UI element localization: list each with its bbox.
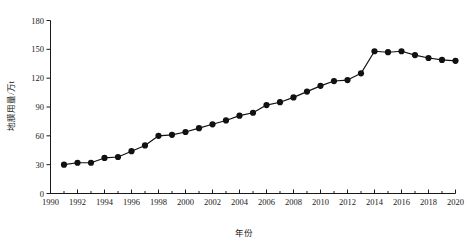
y-tick-label: 60 — [36, 131, 45, 141]
axes-group — [51, 21, 456, 194]
series-data-point — [209, 121, 215, 127]
series-data-point — [88, 160, 94, 166]
x-tick-label: 2012 — [339, 197, 356, 207]
y-tick-label: 150 — [31, 44, 44, 54]
series-data-point — [128, 148, 134, 154]
y-axis-title: 地膜用量/万t — [6, 81, 16, 131]
series-data-point — [61, 162, 67, 168]
x-tick-label: 2010 — [312, 197, 329, 207]
series-data-point — [263, 102, 269, 108]
line-chart-plot: 1990199219941996199820002002200420062008… — [0, 0, 468, 243]
y-tick-label: 90 — [36, 102, 45, 112]
series-line-path — [64, 51, 456, 164]
series-data-point — [425, 55, 431, 61]
x-tick-label: 1992 — [69, 197, 86, 207]
series-data-point — [155, 133, 161, 139]
y-tick-label: 30 — [36, 160, 45, 170]
series-data-point — [277, 99, 283, 105]
x-tick-label: 2002 — [204, 197, 221, 207]
x-axis-title: 年份 — [235, 228, 253, 238]
series-data-point — [169, 132, 175, 138]
series-data-point — [385, 49, 391, 55]
data-series-plastic-film-usage — [61, 48, 459, 168]
series-data-point — [317, 83, 323, 89]
x-tick-label: 2000 — [177, 197, 194, 207]
series-data-point — [358, 70, 364, 76]
series-data-point — [412, 52, 418, 58]
series-data-point — [196, 125, 202, 131]
x-tick-label: 1996 — [123, 197, 140, 207]
series-data-point — [290, 94, 296, 100]
series-data-point — [182, 129, 188, 135]
series-data-point — [250, 110, 256, 116]
x-tick-label: 2004 — [231, 197, 249, 207]
x-tick-label: 2014 — [366, 197, 384, 207]
x-tick-label: 2020 — [447, 197, 464, 207]
x-tick-label: 2008 — [285, 197, 302, 207]
series-data-point — [439, 57, 445, 63]
y-tick-label: 180 — [31, 16, 44, 26]
series-data-point — [142, 142, 148, 148]
x-tick-label: 2006 — [258, 197, 275, 207]
series-data-point — [398, 48, 404, 54]
series-data-point — [331, 78, 337, 84]
x-tick-label: 1990 — [42, 197, 59, 207]
x-tick-label: 2018 — [420, 197, 437, 207]
series-data-point — [344, 77, 350, 83]
x-tick-label: 1994 — [96, 197, 114, 207]
y-axis-ticks: 0306090120150180 — [31, 16, 50, 199]
series-data-point — [304, 89, 310, 95]
series-data-point — [101, 155, 107, 161]
x-tick-label: 1998 — [150, 197, 167, 207]
series-data-point — [236, 113, 242, 119]
series-data-point — [115, 154, 121, 160]
x-axis-ticks: 1990199219941996199820002002200420062008… — [42, 190, 464, 207]
x-tick-label: 2016 — [393, 197, 410, 207]
y-tick-label: 120 — [31, 73, 44, 83]
series-data-point — [452, 58, 458, 64]
series-data-point — [371, 48, 377, 54]
series-data-point — [74, 160, 80, 166]
y-tick-label: 0 — [40, 189, 44, 199]
chart-figure: 1990199219941996199820002002200420062008… — [0, 0, 468, 243]
series-data-point — [223, 117, 229, 123]
